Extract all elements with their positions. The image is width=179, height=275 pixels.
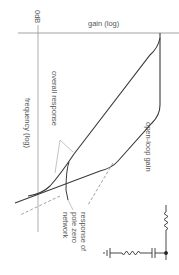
frequency-axis-label: frequency (log) — [23, 98, 32, 149]
zero-db-label: 0dB — [33, 10, 42, 23]
pole-zero-label-2: pole zero — [70, 212, 79, 243]
gain-axis-label: gain (log) — [88, 19, 120, 28]
resistor-horizontal-icon — [122, 251, 140, 255]
overall-response-leader-2 — [60, 140, 73, 152]
open-loop-gain-label: open-loop gain — [144, 122, 153, 172]
resistor-vertical-icon — [164, 212, 168, 230]
pole-zero-response-curve — [66, 162, 69, 200]
pole-zero-label-1: response of — [79, 212, 88, 252]
pole-zero-circuit — [104, 205, 168, 260]
overall-response-leader-1 — [55, 140, 60, 173]
pole-zero-leader — [68, 200, 73, 210]
bode-diagram: 0dB gain (log) frequency (log) overall r… — [0, 0, 179, 275]
pole-zero-label-3: network — [61, 212, 70, 239]
pole-zero-dashed-asymptote-high — [88, 163, 113, 205]
ground-icon — [104, 248, 110, 258]
overall-response-label: overall response — [50, 71, 59, 126]
open-loop-gain-curve — [15, 33, 160, 203]
overall-response-curve — [28, 38, 160, 196]
